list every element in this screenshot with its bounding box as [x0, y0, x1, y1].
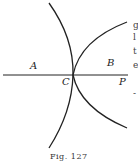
page-fragment: l: [133, 32, 138, 42]
label-c: C: [62, 77, 70, 87]
page-fragment: -: [133, 88, 138, 98]
label-b: B: [107, 58, 114, 68]
page-fragment: t: [133, 46, 138, 56]
figure-caption: Fig. 127: [50, 152, 88, 161]
label-a: A: [30, 61, 37, 71]
page-fragment: g: [133, 20, 138, 30]
page-fragment: e: [133, 60, 138, 70]
label-p: P: [119, 77, 126, 87]
